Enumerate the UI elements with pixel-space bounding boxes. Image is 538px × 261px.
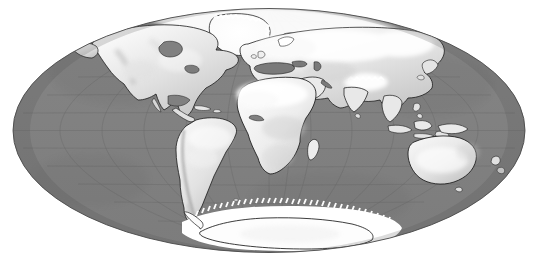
subantarctic-islands	[234, 199, 238, 201]
world-map-figure	[0, 0, 538, 261]
world-map-canvas	[0, 0, 538, 261]
